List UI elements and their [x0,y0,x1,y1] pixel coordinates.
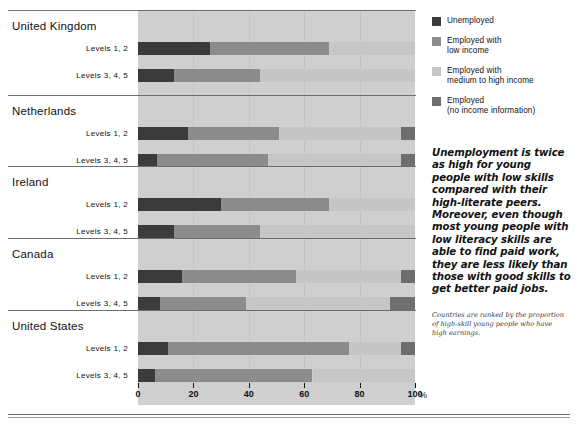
legend-label: Employed withlow income [447,36,502,57]
level-row-label: Levels 1, 2 [18,129,128,138]
bar-segment-employed-no-income-information [401,127,415,140]
bar-segment-employed-with-medium-to-high-income [260,225,415,238]
level-row-label: Levels 1, 2 [18,272,128,281]
country-divider [8,95,416,96]
bar-segment-employed-with-low-income [182,270,296,283]
legend-item-employed-no-income-info[interactable]: Employed(no income information) [432,96,574,117]
source-note: Countries are ranked by the proportion o… [432,311,568,338]
axis-tick [249,383,250,388]
axis-tick [138,383,139,388]
legend-swatch-icon [432,97,441,106]
stacked-bar [138,127,415,140]
country-divider [8,10,416,11]
footer-rule-bottom [8,417,570,418]
bar-segment-unemployed [138,297,160,310]
axis-tick [360,383,361,388]
level-row-label: Levels 3, 4, 5 [18,299,128,308]
bar-segment-employed-with-low-income [174,69,260,82]
bar-segment-employed-with-low-income [168,342,348,355]
x-axis: 020406080100 [138,383,415,405]
bar-segment-unemployed [138,342,168,355]
country-divider [8,166,416,167]
bar-segment-employed-with-medium-to-high-income [349,342,402,355]
stacked-bar [138,270,415,283]
stacked-bar [138,225,415,238]
level-row-label: Levels 3, 4, 5 [18,227,128,236]
level-row-label: Levels 1, 2 [18,200,128,209]
bar-segment-employed-with-low-income [155,369,313,382]
chart-area: United KingdomLevels 1, 2Levels 3, 4, 5N… [0,0,424,425]
plot-gridline [193,10,194,383]
footer-rule-top [8,414,570,415]
bar-segment-employed-with-medium-to-high-income [246,297,390,310]
plot-gridline [249,10,250,383]
bar-segment-employed-with-low-income [188,127,279,140]
bar-segment-unemployed [138,270,182,283]
bar-segment-unemployed [138,198,221,211]
legend-swatch-icon [432,17,441,26]
legend-swatch-icon [432,37,441,46]
country-label: Ireland [12,176,49,188]
bar-segment-employed-with-medium-to-high-income [260,69,415,82]
bar-segment-employed-with-medium-to-high-income [279,127,401,140]
legend-item-employed-medium-high-income[interactable]: Employed withmedium to high income [432,66,574,87]
country-label: United Kingdom [12,20,97,32]
bar-segment-employed-no-income-information [401,342,415,355]
axis-tick-label: 40 [244,389,254,399]
plot-gridline [360,10,361,383]
stacked-bar [138,369,415,382]
legend-swatch-icon [432,67,441,76]
bar-segment-employed-with-low-income [174,225,260,238]
axis-tick-label: 80 [355,389,365,399]
stacked-bar [138,198,415,211]
bar-segment-employed-with-medium-to-high-income [329,42,415,55]
bar-segment-unemployed [138,369,155,382]
bar-segment-employed-with-medium-to-high-income [329,198,415,211]
bar-segment-employed-with-medium-to-high-income [313,369,415,382]
axis-tick [304,383,305,388]
country-label: Canada [12,248,53,260]
legend: UnemployedEmployed withlow incomeEmploye… [432,16,574,126]
legend-label: Unemployed [447,16,494,27]
pull-quote: Unemployment is twice as high for young … [432,147,572,296]
bar-segment-employed-with-low-income [221,198,329,211]
bar-segment-employed-with-low-income [160,297,246,310]
country-divider [8,238,416,239]
bar-segment-unemployed [138,127,188,140]
axis-unit-label: % [419,390,427,400]
axis-tick [193,383,194,388]
stacked-bar [138,42,415,55]
axis-tick-label: 20 [188,389,198,399]
level-row-label: Levels 1, 2 [18,344,128,353]
legend-item-unemployed[interactable]: Unemployed [432,16,574,27]
bar-segment-unemployed [138,225,174,238]
bar-segment-employed-with-low-income [210,42,329,55]
stacked-bar [138,69,415,82]
country-divider [8,310,416,311]
plot-gridline [304,10,305,383]
level-row-label: Levels 3, 4, 5 [18,156,128,165]
stacked-bar [138,297,415,310]
level-row-label: Levels 3, 4, 5 [18,71,128,80]
country-label: United States [12,320,84,332]
stacked-bar [138,342,415,355]
plot-background [138,10,415,383]
bar-segment-employed-no-income-information [390,297,415,310]
axis-tick-label: 0 [135,389,140,399]
legend-label: Employed(no income information) [447,96,535,117]
axis-tick [415,383,416,388]
bar-segment-employed-no-income-information [401,270,415,283]
level-row-label: Levels 3, 4, 5 [18,371,128,380]
bar-segment-unemployed [138,69,174,82]
legend-item-employed-low-income[interactable]: Employed withlow income [432,36,574,57]
legend-label: Employed withmedium to high income [447,66,534,87]
bar-segment-unemployed [138,42,210,55]
country-label: Netherlands [12,105,76,117]
level-row-label: Levels 1, 2 [18,44,128,53]
bar-segment-employed-with-medium-to-high-income [296,270,401,283]
axis-tick-label: 60 [299,389,309,399]
